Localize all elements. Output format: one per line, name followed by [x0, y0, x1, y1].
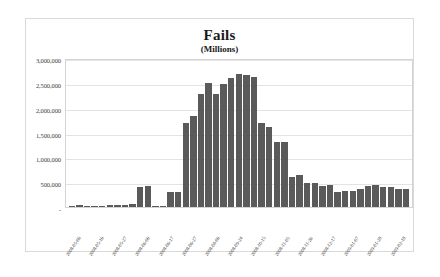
x-axis-tick-label: 2008-06-17 [158, 236, 175, 257]
bar [266, 127, 272, 207]
bar [319, 186, 325, 207]
bar [76, 205, 82, 207]
chart-subtitle: (Millions) [26, 44, 413, 54]
bar [258, 123, 264, 207]
bar [99, 206, 105, 207]
x-axis-tick-label: 2009-02-18 [390, 236, 407, 257]
y-axis: 3,000,0002,500,0002,000,0001,500,0001,00… [26, 59, 63, 209]
bar [205, 83, 211, 207]
bar [304, 183, 310, 207]
bar [327, 185, 333, 207]
bar [220, 84, 226, 207]
bar [183, 123, 189, 207]
x-axis-tick-label: 2008-11-05 [274, 236, 291, 257]
bar [380, 187, 386, 207]
bar [388, 187, 394, 207]
chart-title: Fails [26, 27, 413, 44]
x-axis-tick-label: 2008-06-06 [134, 236, 151, 257]
x-axis-tick-label: 2009-01-07 [343, 236, 360, 257]
bar [243, 75, 249, 207]
x-axis-tick-label: 2008-10-15 [250, 236, 267, 257]
bar [251, 77, 257, 207]
bar [198, 94, 204, 207]
bar [289, 177, 295, 207]
x-axis-tick-label: 2008-11-26 [297, 236, 314, 257]
bar [403, 189, 409, 207]
plot-area [65, 59, 413, 208]
bar [342, 191, 348, 207]
y-axis-tick-label: 2,000,000 [36, 106, 61, 113]
y-axis-tick-label: 500,000 [41, 181, 61, 188]
bar [175, 192, 181, 207]
bar [190, 116, 196, 207]
x-axis-tick-label: 2008-12-17 [320, 236, 337, 257]
bar [152, 206, 158, 207]
bar [281, 142, 287, 207]
chart-frame: Fails (Millions) 3,000,0002,500,0002,000… [25, 18, 414, 252]
bar [122, 205, 128, 207]
bar [365, 186, 371, 207]
bar [69, 206, 75, 207]
x-axis-tick-label: 2008-05-06 [65, 236, 82, 257]
bar [236, 74, 242, 207]
x-axis-tick-label: 2008-05-27 [111, 236, 128, 257]
bar [312, 183, 318, 207]
y-axis-tick-label: 2,500,000 [36, 81, 61, 88]
bar [114, 205, 120, 207]
y-axis-tick-label: 1,500,000 [36, 131, 61, 138]
bar [395, 189, 401, 207]
bar [91, 206, 97, 207]
bar [350, 191, 356, 207]
bar [357, 189, 363, 207]
x-axis: 2008-05-062008-05-162008-05-272008-06-06… [65, 209, 413, 269]
bar [129, 204, 135, 207]
bar [107, 205, 113, 207]
bar [145, 186, 151, 207]
bar-series [66, 60, 412, 207]
bar [372, 185, 378, 207]
bar [137, 187, 143, 207]
bar [160, 206, 166, 207]
bar [228, 78, 234, 207]
bar [84, 206, 90, 207]
y-axis-tick-label: - [59, 206, 61, 213]
bar [334, 192, 340, 207]
y-axis-tick-label: 1,000,000 [36, 156, 61, 163]
y-axis-tick-label: 3,000,000 [36, 57, 61, 64]
bar [213, 94, 219, 207]
x-axis-tick-label: 2008-05-16 [88, 236, 105, 257]
bar [167, 192, 173, 207]
x-axis-tick-label: 2008-06-27 [181, 236, 198, 257]
x-axis-tick-label: 2009-01-28 [366, 236, 383, 257]
x-axis-tick-label: 2008-08-06 [204, 236, 221, 257]
x-axis-tick-label: 2008-09-24 [227, 236, 244, 257]
bar [274, 142, 280, 207]
bar [296, 175, 302, 207]
